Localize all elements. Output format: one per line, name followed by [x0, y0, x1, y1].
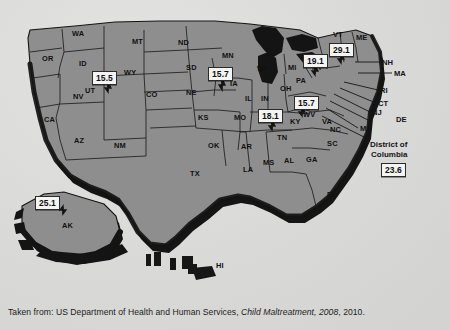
state-label-ut: UT: [85, 86, 96, 95]
state-label-md: MD: [360, 124, 372, 133]
state-label-hi: HI: [216, 261, 224, 270]
state-label-mo: MO: [234, 113, 246, 122]
state-label-de: DE: [396, 115, 407, 124]
state-label-sd: SD: [186, 63, 197, 72]
state-label-tn: TN: [277, 133, 287, 142]
caption-prefix: Taken from: US Department of Health and …: [8, 307, 241, 317]
state-label-al: AL: [284, 156, 295, 165]
state-label-vt: VT: [333, 30, 343, 39]
callout-vermont[interactable]: 29.1: [329, 43, 354, 57]
state-label-la: LA: [243, 165, 254, 174]
source-caption: Taken from: US Department of Health and …: [8, 307, 365, 317]
us-map-stage: AK HI WA OR ID MT ND SD MN WI: [0, 0, 450, 300]
callout-nevada[interactable]: 15.5: [92, 71, 117, 85]
state-label-pa: PA: [296, 76, 307, 85]
state-label-ok: OK: [208, 141, 220, 150]
callout-ohio[interactable]: 15.7: [294, 96, 319, 110]
caption-suffix: , 2010.: [338, 307, 365, 317]
state-label-nh: NH: [382, 58, 393, 67]
state-label-wi: WI: [257, 64, 266, 73]
state-label-id: ID: [79, 59, 87, 68]
callout-iowa[interactable]: 15.7: [208, 67, 233, 81]
state-label-az: AZ: [74, 136, 85, 145]
state-label-fl: FL: [327, 190, 337, 199]
state-label-ct: CT: [378, 99, 388, 108]
state-label-me: ME: [356, 33, 368, 42]
state-label-ma: MA: [394, 69, 406, 78]
hawaii-inset: HI: [146, 252, 224, 280]
state-label-co: CO: [146, 90, 158, 99]
state-label-oh: OH: [280, 84, 292, 93]
state-label-nv: NV: [73, 92, 84, 101]
state-label-il: IL: [245, 94, 252, 103]
state-label-ri: RI: [380, 86, 388, 95]
dc-annotation-line2: Columbia: [371, 150, 407, 160]
callout-alaska[interactable]: 25.1: [35, 196, 60, 210]
state-label-ar: AR: [241, 142, 253, 151]
state-label-ne: NE: [186, 88, 197, 97]
state-label-mi: MI: [288, 63, 297, 72]
state-label-ks: KS: [198, 113, 209, 122]
state-label-ms: MS: [263, 158, 275, 167]
alaska-inset: AK: [14, 192, 128, 264]
state-label-nj: NJ: [372, 108, 382, 117]
state-label-nm: NM: [114, 141, 126, 150]
state-label-nc: NC: [330, 125, 342, 134]
state-label-tx: TX: [190, 169, 200, 178]
callout-illinois[interactable]: 18.1: [258, 109, 283, 123]
state-label-in: IN: [261, 94, 269, 103]
state-label-ak: AK: [62, 221, 74, 230]
callout-dc[interactable]: 23.6: [381, 163, 406, 177]
state-label-mn: MN: [222, 51, 234, 60]
dc-annotation-line1: District of: [370, 140, 407, 150]
callout-newyork[interactable]: 19.1: [303, 54, 328, 68]
state-label-or: OR: [42, 54, 54, 63]
state-label-mt: MT: [132, 37, 143, 46]
state-label-ky: KY: [290, 117, 301, 126]
caption-italic-title: Child Maltreatment, 2008: [241, 307, 338, 317]
state-label-nd: ND: [178, 38, 190, 47]
state-label-sc: SC: [327, 139, 338, 148]
state-label-wa: WA: [72, 29, 85, 38]
state-label-wy: WY: [124, 68, 136, 77]
state-label-ca: CA: [44, 115, 56, 124]
state-label-ga: GA: [306, 155, 318, 164]
figure-container: AK HI WA OR ID MT ND SD MN WI: [0, 0, 450, 330]
